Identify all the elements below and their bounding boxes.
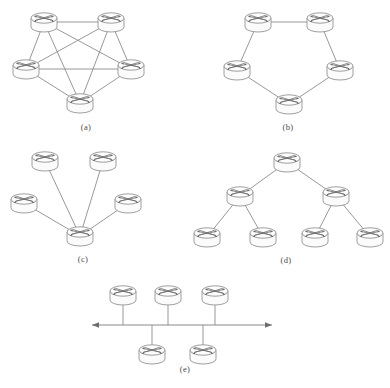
node-c-leaf4[interactable]	[115, 194, 141, 213]
router-icon	[327, 61, 353, 80]
router-icon	[13, 60, 39, 79]
router-icon	[90, 152, 116, 171]
router-icon	[115, 194, 141, 213]
node-d-root[interactable]	[274, 153, 300, 172]
node-e-top3[interactable]	[202, 286, 228, 305]
router-icon	[224, 61, 250, 80]
panel-caption-d: (d)	[281, 255, 292, 265]
node-d-leaf4[interactable]	[357, 228, 383, 247]
panel-caption-e: (e)	[180, 364, 190, 374]
router-icon	[155, 286, 181, 305]
edge-a-4	[44, 22, 80, 103]
node-c-leaf1[interactable]	[32, 152, 58, 171]
bus-layer	[92, 301, 272, 345]
router-icon	[32, 152, 58, 171]
node-a2[interactable]	[98, 13, 124, 32]
edges-layer	[24, 22, 370, 237]
node-e-top1[interactable]	[110, 286, 136, 305]
router-icon	[139, 345, 165, 364]
router-icon	[190, 345, 216, 364]
node-d-leaf3[interactable]	[302, 228, 328, 247]
panel-caption-a: (a)	[81, 122, 91, 132]
router-icon	[245, 13, 271, 32]
router-icon	[118, 60, 144, 79]
node-b1[interactable]	[245, 13, 271, 32]
router-icon	[276, 95, 302, 114]
router-icon	[357, 228, 383, 247]
node-a3[interactable]	[13, 60, 39, 79]
router-icon	[11, 194, 37, 213]
router-icon	[274, 153, 300, 172]
node-b5[interactable]	[276, 95, 302, 114]
node-d-mid1[interactable]	[227, 187, 253, 206]
topology-canvas: (a)(b)(c)(d)(e)	[0, 0, 390, 388]
router-icon	[307, 13, 333, 32]
node-b4[interactable]	[327, 61, 353, 80]
router-icon	[67, 227, 93, 246]
node-b2[interactable]	[307, 13, 333, 32]
edge-c-2	[80, 161, 103, 236]
edge-c-1	[45, 161, 80, 236]
node-d-leaf2[interactable]	[250, 228, 276, 247]
node-c-leaf3[interactable]	[11, 194, 37, 213]
bus-arrow-right-icon	[265, 322, 272, 328]
node-e-top2[interactable]	[155, 286, 181, 305]
node-a4[interactable]	[118, 60, 144, 79]
router-icon	[31, 13, 57, 32]
router-icon	[202, 286, 228, 305]
router-icon	[302, 228, 328, 247]
router-icon	[110, 286, 136, 305]
node-d-mid2[interactable]	[323, 187, 349, 206]
panel-caption-b: (b)	[283, 122, 294, 132]
node-a5[interactable]	[67, 94, 93, 113]
router-icon	[250, 228, 276, 247]
node-a1[interactable]	[31, 13, 57, 32]
router-icon	[67, 94, 93, 113]
nodes-layer	[11, 13, 383, 364]
node-d-leaf1[interactable]	[194, 228, 220, 247]
node-e-bottom1[interactable]	[139, 345, 165, 364]
node-e-bottom2[interactable]	[190, 345, 216, 364]
router-icon	[194, 228, 220, 247]
network-topology-figure: (a)(b)(c)(d)(e)	[0, 0, 390, 388]
panel-caption-c: (c)	[78, 254, 88, 264]
bus-arrow-left-icon	[92, 322, 99, 328]
router-icon	[98, 13, 124, 32]
node-c-leaf2[interactable]	[90, 152, 116, 171]
node-b3[interactable]	[224, 61, 250, 80]
router-icon	[323, 187, 349, 206]
node-c-hub[interactable]	[67, 227, 93, 246]
router-icon	[227, 187, 253, 206]
edge-a-7	[80, 22, 111, 103]
